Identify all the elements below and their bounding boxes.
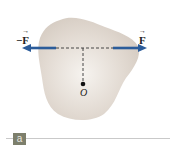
panel-label-badge: a bbox=[13, 133, 26, 145]
panel-rule bbox=[26, 138, 170, 139]
torque-couple-diagram: −F F O a bbox=[0, 0, 172, 160]
pivot-point-label: O bbox=[80, 88, 87, 98]
rigid-body-shape bbox=[38, 18, 139, 120]
force-symbol: F bbox=[139, 35, 146, 46]
pivot-point-dot bbox=[81, 82, 86, 87]
panel-rule-left bbox=[6, 138, 13, 139]
force-label: F bbox=[139, 35, 146, 46]
neg-force-symbol: F bbox=[22, 35, 29, 46]
neg-force-label: −F bbox=[16, 35, 29, 46]
